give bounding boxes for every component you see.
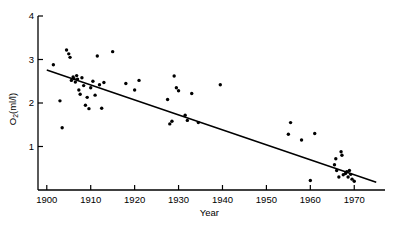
data-point [75,74,78,77]
data-point [333,163,336,166]
data-point [100,107,103,110]
data-point [289,121,292,124]
oxygen-vs-year-scatter-figure: 123419001910192019301940195019601970Year… [0,0,395,235]
data-point [137,79,140,82]
data-point [348,169,351,172]
data-point [58,99,61,102]
data-point [87,107,90,110]
data-point [197,121,200,124]
data-point [313,132,316,135]
data-point [166,98,169,101]
data-point [335,169,338,172]
data-point [300,138,303,141]
data-point [349,173,352,176]
data-point [98,83,101,86]
data-point [80,76,83,79]
data-point [346,175,349,178]
data-point [72,77,75,80]
data-point [74,80,77,83]
x-tick-label: 1910 [80,194,101,205]
data-point [287,133,290,136]
data-point [190,92,193,95]
data-point [85,96,88,99]
trend-line [47,70,376,182]
data-point [111,50,114,53]
data-point [172,74,175,77]
data-point [177,89,180,92]
data-point [219,83,222,86]
y-tick-label: 4 [29,10,34,21]
data-point [340,154,343,157]
data-point [89,86,92,89]
chart-canvas: 123419001910192019301940195019601970Year… [0,0,395,235]
x-tick-label: 1970 [344,194,365,205]
data-point [77,88,80,91]
data-point [91,80,94,83]
data-point [339,150,342,153]
data-point [170,120,173,123]
data-point [353,180,356,183]
data-point [96,54,99,57]
data-point [102,81,105,84]
data-point [84,103,87,106]
data-point [78,93,81,96]
data-point [133,88,136,91]
y-tick-label: 1 [29,141,34,152]
x-tick-label: 1950 [256,194,277,205]
data-point [68,56,71,59]
x-tick-label: 1920 [124,194,145,205]
data-point [67,52,70,55]
data-point [175,86,178,89]
x-tick-label: 1940 [212,194,233,205]
data-point [76,77,79,80]
data-point [124,82,127,85]
y-tick-label: 3 [29,54,34,65]
data-point [309,179,312,182]
data-point [82,84,85,87]
x-axis-title: Year [200,207,219,218]
data-point [337,175,340,178]
data-point [183,113,186,116]
y-axis-title: O2(ml/l) [7,93,19,125]
x-tick-label: 1900 [36,194,57,205]
data-point [186,119,189,122]
x-tick-label: 1960 [300,194,321,205]
data-point [65,48,68,51]
data-point [168,122,171,125]
data-point [52,63,55,66]
data-point [93,93,96,96]
x-tick-label: 1930 [168,194,189,205]
data-point [334,157,337,160]
data-point [60,126,63,129]
y-tick-label: 2 [29,97,34,108]
